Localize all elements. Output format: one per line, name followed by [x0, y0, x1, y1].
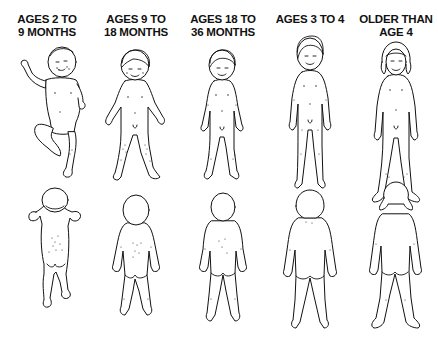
toddler-9-18-back-figure [85, 195, 185, 325]
column-heading-2-9-months: AGES 2 TO 9 MONTHS [5, 13, 89, 39]
heading-line-1: AGES 9 TO [94, 13, 178, 26]
heading-line-1: AGES 3 TO 4 [268, 13, 352, 26]
heading-line-1: AGES 2 TO [5, 13, 89, 26]
child-3-4-front-figure [262, 30, 358, 210]
toddler-18-36-front-figure [172, 45, 272, 205]
toddler-9-18-front-figure [85, 45, 185, 205]
column-heading-9-18-months: AGES 9 TO 18 MONTHS [94, 13, 178, 39]
heading-line-2: 18 MONTHS [94, 26, 178, 39]
heading-line-1: OLDER THAN [354, 13, 438, 26]
heading-line-2: 36 MONTHS [181, 26, 265, 39]
heading-line-2: AGE 4 [354, 26, 438, 39]
column-heading-18-36-months: AGES 18 TO 36 MONTHS [181, 13, 265, 39]
child-3-4-back-figure [262, 190, 358, 340]
heading-line-2: 9 MONTHS [5, 26, 89, 39]
toddler-18-36-back-figure [175, 195, 271, 325]
child-older-4-back-figure [348, 188, 438, 338]
column-heading-3-4-years: AGES 3 TO 4 [268, 13, 352, 26]
column-heading-older-than-4: OLDER THAN AGE 4 [354, 13, 438, 39]
heading-line-1: AGES 18 TO [181, 13, 265, 26]
